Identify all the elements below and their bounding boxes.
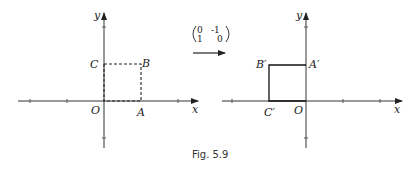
label-O-prime-panel: O bbox=[294, 104, 303, 117]
right-x-label: x bbox=[394, 103, 401, 116]
matrix-entry-21: 1 bbox=[197, 34, 203, 44]
label-C-prime: C′ bbox=[264, 106, 275, 119]
label-O: O bbox=[91, 104, 100, 117]
dashed-square-OABC bbox=[104, 64, 141, 101]
label-B: B bbox=[141, 57, 150, 70]
matrix-right-paren bbox=[226, 26, 229, 42]
label-A: A bbox=[136, 106, 145, 119]
matrix-entry-22: 0 bbox=[217, 34, 223, 44]
left-x-label: x bbox=[192, 103, 199, 116]
left-y-label: y bbox=[93, 9, 101, 22]
label-C: C bbox=[90, 58, 99, 71]
matrix-left-paren bbox=[193, 26, 196, 42]
right-panel: y x O A′ B′ C′ bbox=[222, 9, 402, 148]
left-panel: y x O A B C bbox=[18, 9, 199, 148]
transformation: 0 -1 1 0 bbox=[193, 25, 229, 53]
figure-canvas: y x O A B C 0 -1 1 0 y x O A′ B′ C′ Fig bbox=[0, 0, 420, 176]
figure-caption: Fig. 5.9 bbox=[192, 149, 228, 160]
label-B-prime: B′ bbox=[255, 58, 267, 71]
label-A-prime: A′ bbox=[308, 58, 320, 71]
right-y-label: y bbox=[295, 9, 303, 22]
solid-square-OA'B'C' bbox=[269, 65, 306, 101]
